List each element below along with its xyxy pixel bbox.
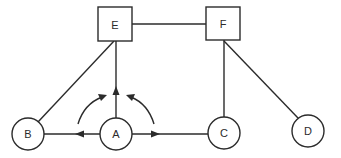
node-e: E xyxy=(98,7,132,41)
node-e-label: E xyxy=(111,19,118,31)
curved-arrow-right xyxy=(131,97,154,124)
node-d: D xyxy=(292,115,324,147)
node-b-label: B xyxy=(24,128,31,140)
node-f-label: F xyxy=(220,18,227,30)
node-a: A xyxy=(100,118,132,150)
arrowhead-left-icon xyxy=(75,131,84,138)
node-c-label: C xyxy=(220,127,228,139)
curved-arrow-left xyxy=(78,97,102,124)
arrowhead-right-icon xyxy=(151,131,160,138)
edge-f-d xyxy=(224,41,298,118)
node-b: B xyxy=(12,118,44,150)
node-d-label: D xyxy=(304,125,312,137)
graph-diagram: E F A B C D xyxy=(0,0,341,158)
node-c: C xyxy=(208,117,240,149)
edge-b-e xyxy=(38,41,114,122)
node-f: F xyxy=(206,7,240,40)
node-a-label: A xyxy=(112,128,120,140)
arrowhead-up-icon xyxy=(113,86,120,95)
